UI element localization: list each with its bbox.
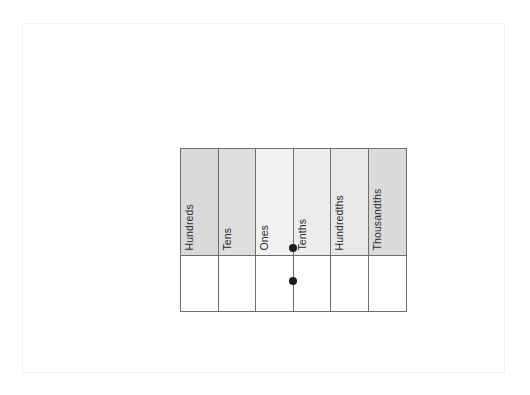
header-label-wrap: Hundreds <box>181 149 218 255</box>
header-label-wrap: Tenths <box>294 149 331 255</box>
decimal-point-bottom-icon <box>289 277 297 285</box>
value-cell-ones[interactable] <box>256 256 294 312</box>
place-value-table: Hundreds Tens Ones <box>180 148 407 312</box>
value-cell-thousandths[interactable] <box>368 256 406 312</box>
header-label-wrap: Ones <box>256 149 293 255</box>
page-frame: Hundreds Tens Ones <box>22 23 505 373</box>
place-value-chart: Hundreds Tens Ones <box>180 148 406 310</box>
header-cell-hundreds[interactable]: Hundreds <box>181 149 219 256</box>
value-cell-hundreds[interactable] <box>181 256 219 312</box>
header-label-wrap: Thousandths <box>369 149 406 255</box>
column-label-hundredths: Hundredths <box>334 195 345 250</box>
table-row-headers: Hundreds Tens Ones <box>181 149 407 256</box>
column-label-tens: Tens <box>221 227 232 250</box>
decimal-point-top-icon <box>289 244 297 252</box>
header-cell-ones[interactable]: Ones <box>256 149 294 256</box>
header-cell-hundredths[interactable]: Hundredths <box>331 149 369 256</box>
column-label-thousandths: Thousandths <box>371 188 382 250</box>
value-cell-tens[interactable] <box>218 256 256 312</box>
header-cell-tens[interactable]: Tens <box>218 149 256 256</box>
value-cell-hundredths[interactable] <box>331 256 369 312</box>
header-label-wrap: Tens <box>219 149 256 255</box>
column-label-tenths: Tenths <box>296 218 307 250</box>
header-cell-tenths[interactable]: Tenths <box>293 149 331 256</box>
column-label-ones: Ones <box>259 225 270 251</box>
header-label-wrap: Hundredths <box>331 149 368 255</box>
header-cell-thousandths[interactable]: Thousandths <box>368 149 406 256</box>
column-label-hundreds: Hundreds <box>184 204 195 250</box>
value-cell-tenths[interactable] <box>293 256 331 312</box>
